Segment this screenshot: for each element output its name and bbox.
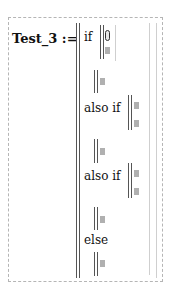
also-if-1-placeholder-a[interactable] <box>134 102 139 109</box>
also-if-2-then-bar <box>94 207 98 230</box>
program-bar <box>76 23 80 278</box>
right-guide-line-1 <box>149 23 150 275</box>
also-if-keyword-1: also if <box>84 101 120 115</box>
if-then-placeholder[interactable] <box>100 78 105 85</box>
if-keyword: if <box>84 30 92 44</box>
also-if-2-then-placeholder[interactable] <box>100 216 105 223</box>
variable-definition-label: Test_3 := <box>12 31 78 46</box>
if-condition-line <box>115 25 116 61</box>
also-if-1-placeholder-b[interactable] <box>134 120 139 127</box>
if-condition-placeholder[interactable] <box>105 30 110 41</box>
else-placeholder[interactable] <box>100 260 105 267</box>
else-bar <box>94 252 98 276</box>
if-condition-placeholder-2[interactable] <box>105 47 110 54</box>
also-if-2-condition-bar <box>128 163 132 198</box>
also-if-keyword-2: also if <box>84 169 120 183</box>
if-condition-bar <box>100 25 104 59</box>
right-guide-line-2 <box>156 23 157 278</box>
also-if-1-then-placeholder[interactable] <box>100 148 105 155</box>
also-if-1-then-bar <box>94 139 98 163</box>
also-if-1-condition-bar <box>128 95 132 130</box>
if-then-bar <box>94 70 98 93</box>
also-if-2-placeholder-a[interactable] <box>134 170 139 177</box>
also-if-2-placeholder-b[interactable] <box>134 188 139 195</box>
else-keyword: else <box>84 233 108 247</box>
